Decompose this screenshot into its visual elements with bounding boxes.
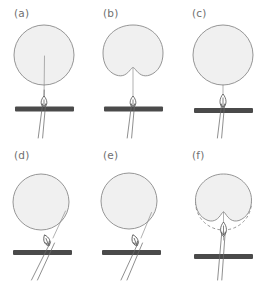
substrate-bar xyxy=(102,250,161,255)
loop-probe xyxy=(42,234,52,247)
panel-d: (d) xyxy=(0,142,89,284)
substrate-bar xyxy=(104,107,163,112)
fiber-tail-right xyxy=(38,243,55,280)
substrate-bar xyxy=(15,107,74,112)
droplet xyxy=(193,25,253,85)
figure-panel-grid: (a) (b) xyxy=(0,0,268,284)
loop-probe xyxy=(130,234,139,247)
substrate-bar xyxy=(13,250,72,255)
fiber-tail-left xyxy=(32,242,51,280)
panel-f: (f) xyxy=(178,142,267,284)
loop-probe xyxy=(220,94,226,109)
panel-b: (b) xyxy=(89,0,178,142)
droplet xyxy=(101,173,157,229)
panel-c: (c) xyxy=(178,0,267,142)
panel-a: (a) xyxy=(0,0,89,142)
panel-e: (e) xyxy=(89,142,178,284)
